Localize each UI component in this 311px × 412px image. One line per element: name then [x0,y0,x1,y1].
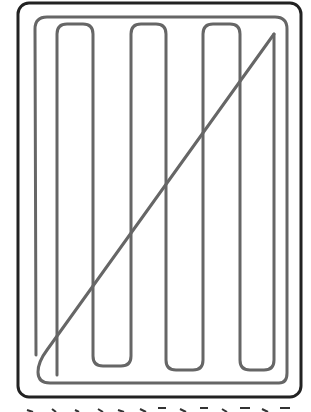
cropped-caption [27,408,290,412]
serpentine-coverage-path [57,24,274,375]
outer-frame [18,3,301,397]
diagonal-return-path [35,17,287,383]
coverage-path-diagram [0,0,311,412]
